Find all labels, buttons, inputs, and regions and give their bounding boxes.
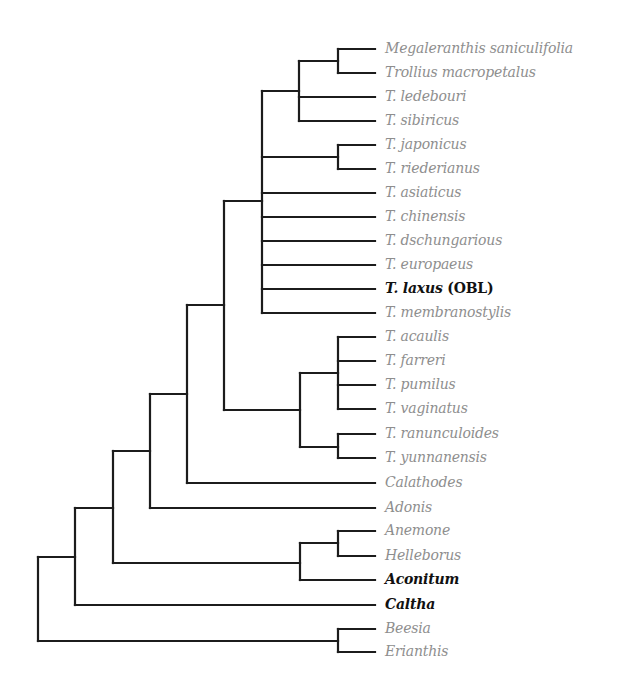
taxon-label: T. europaeus [385, 255, 473, 273]
taxon-name: T. ledebouri [385, 88, 466, 104]
taxon-label: T. pumilus [385, 375, 456, 393]
taxon-label: Helleborus [385, 546, 461, 564]
taxon-label: Erianthis [385, 642, 448, 660]
taxon-label: T. riederianus [385, 159, 480, 177]
taxon-label: Caltha [385, 595, 435, 613]
taxon-label: T. japonicus [385, 135, 466, 153]
taxon-name: T. chinensis [385, 208, 465, 224]
taxon-name: Caltha [385, 596, 435, 612]
taxon-name: T. acaulis [385, 328, 449, 344]
taxon-label: Trollius macropetalus [385, 63, 536, 81]
taxon-label: T. yunnanensis [385, 448, 487, 466]
taxon-name: Beesia [385, 620, 431, 636]
taxon-label: Aconitum [385, 570, 459, 588]
taxon-name: T. asiaticus [385, 184, 461, 200]
taxon-name: Megaleranthis saniculifolia [385, 40, 573, 56]
taxon-name: T. yunnanensis [385, 449, 487, 465]
taxon-label: T. ranunculoides [385, 424, 499, 442]
taxon-label: Adonis [385, 498, 432, 516]
taxon-label: T. asiaticus [385, 183, 461, 201]
taxon-name: T. vaginatus [385, 400, 468, 416]
phylogenetic-tree [0, 0, 632, 699]
taxon-label: T. chinensis [385, 207, 465, 225]
taxon-name: Erianthis [385, 643, 448, 659]
taxon-label: T. vaginatus [385, 399, 468, 417]
taxon-name: T. membranostylis [385, 304, 511, 320]
taxon-name: T. sibiricus [385, 112, 459, 128]
taxon-label: T. farreri [385, 351, 446, 369]
taxon-name: Calathodes [385, 474, 462, 490]
taxon-name: Aconitum [385, 571, 459, 587]
taxon-name: Trollius macropetalus [385, 64, 536, 80]
taxon-name: Helleborus [385, 547, 461, 563]
taxon-name: T. riederianus [385, 160, 480, 176]
taxon-name: T. dschungarious [385, 232, 502, 248]
taxon-name: T. ranunculoides [385, 425, 499, 441]
taxon-name: Anemone [385, 522, 450, 538]
taxon-name: T. europaeus [385, 256, 473, 272]
taxon-label: T. sibiricus [385, 111, 459, 129]
taxon-label: Calathodes [385, 473, 462, 491]
taxon-label: T. membranostylis [385, 303, 511, 321]
taxon-label: Anemone [385, 521, 450, 539]
taxon-label: T. ledebouri [385, 87, 466, 105]
taxon-name: T. laxus [385, 280, 443, 296]
taxon-name: T. farreri [385, 352, 446, 368]
taxon-name: Adonis [385, 499, 432, 515]
taxon-label: T. acaulis [385, 327, 449, 345]
taxon-name: T. japonicus [385, 136, 466, 152]
taxon-label: Megaleranthis saniculifolia [385, 39, 573, 57]
taxon-label: Beesia [385, 619, 431, 637]
taxon-name: T. pumilus [385, 376, 456, 392]
taxon-suffix: (OBL) [443, 280, 494, 296]
taxon-label: T. dschungarious [385, 231, 502, 249]
taxon-label: T. laxus (OBL) [385, 279, 493, 297]
